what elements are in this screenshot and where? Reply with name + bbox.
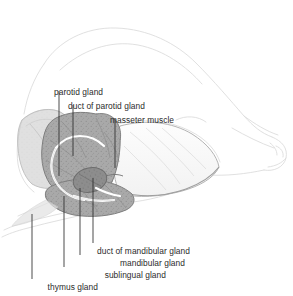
label-sublingual-gland: sublingual gland bbox=[105, 271, 166, 280]
label-masseter-muscle: masseter muscle bbox=[110, 116, 174, 125]
label-parotid-gland: parotid gland bbox=[54, 88, 103, 97]
masseter-muscle-region bbox=[113, 122, 219, 196]
label-duct-of-mandibular-gland: duct of mandibular gland bbox=[97, 247, 190, 256]
label-duct-of-parotid-gland: duct of parotid gland bbox=[68, 102, 145, 111]
anatomical-figure: parotid glandduct of parotid glandmasset… bbox=[0, 0, 293, 296]
label-thymus-gland: thymus gland bbox=[48, 283, 98, 292]
label-mandibular-gland: mandibular gland bbox=[120, 259, 185, 268]
